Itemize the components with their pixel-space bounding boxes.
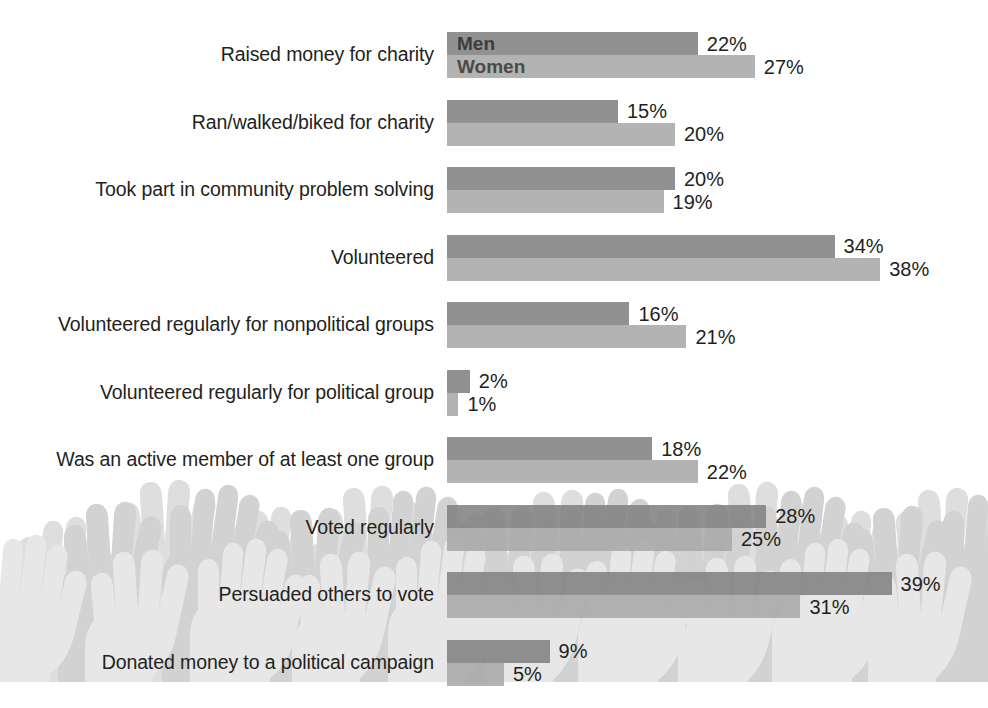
chart-row: Raised money for charityMen22%Women27%	[0, 32, 988, 78]
chart-row: Ran/walked/biked for charity15%20%	[0, 100, 988, 146]
bar-chart: Raised money for charityMen22%Women27%Ra…	[0, 0, 988, 708]
bar-value-label: 18%	[652, 437, 701, 460]
bar-value-label: 22%	[698, 460, 747, 483]
category-label: Volunteered regularly for political grou…	[0, 381, 434, 404]
bar-women[interactable]	[447, 663, 504, 686]
bar-value-label: 28%	[766, 505, 815, 528]
bar-value-label: 9%	[550, 640, 588, 663]
bar-men[interactable]	[447, 640, 550, 663]
category-label: Volunteered regularly for nonpolitical g…	[0, 313, 434, 336]
chart-row: Volunteered regularly for political grou…	[0, 370, 988, 416]
bar-value-label: 20%	[675, 167, 724, 190]
bar-women[interactable]	[447, 258, 880, 281]
bar-men[interactable]	[447, 100, 618, 123]
bar-women[interactable]	[447, 528, 732, 551]
chart-row: Persuaded others to vote39%31%	[0, 572, 988, 618]
bar-women[interactable]	[447, 460, 698, 483]
category-label: Donated money to a political campaign	[0, 651, 434, 674]
bar-women[interactable]	[447, 123, 675, 146]
legend-label-men: Men	[457, 33, 495, 55]
bar-women[interactable]	[447, 190, 664, 213]
bar-men[interactable]	[447, 302, 629, 325]
category-label: Volunteered	[0, 246, 434, 269]
bar-women[interactable]	[447, 595, 800, 618]
bar-value-label: 22%	[698, 32, 747, 55]
bar-value-label: 15%	[618, 100, 667, 123]
chart-row: Volunteered34%38%	[0, 235, 988, 281]
category-label: Took part in community problem solving	[0, 178, 434, 201]
bar-value-label: 2%	[470, 370, 508, 393]
bar-men[interactable]	[447, 167, 675, 190]
bar-value-label: 38%	[880, 258, 929, 281]
chart-row: Donated money to a political campaign9%5…	[0, 640, 988, 686]
chart-row: Voted regularly28%25%	[0, 505, 988, 551]
bar-value-label: 5%	[504, 663, 542, 686]
category-label: Raised money for charity	[0, 43, 434, 66]
bar-men[interactable]	[447, 505, 766, 528]
bar-men[interactable]	[447, 572, 892, 595]
legend-label-women: Women	[457, 56, 525, 78]
bar-value-label: 20%	[675, 123, 724, 146]
bar-value-label: 25%	[732, 528, 781, 551]
category-label: Persuaded others to vote	[0, 583, 434, 606]
category-label: Ran/walked/biked for charity	[0, 111, 434, 134]
bar-men[interactable]	[447, 370, 470, 393]
category-label: Was an active member of at least one gro…	[0, 448, 434, 471]
bar-value-label: 39%	[892, 572, 941, 595]
bar-value-label: 34%	[835, 235, 884, 258]
chart-row: Volunteered regularly for nonpolitical g…	[0, 302, 988, 348]
chart-row: Was an active member of at least one gro…	[0, 437, 988, 483]
bar-value-label: 21%	[686, 325, 735, 348]
bar-men[interactable]	[447, 437, 652, 460]
bar-women[interactable]	[447, 393, 458, 416]
category-label: Voted regularly	[0, 516, 434, 539]
bar-women[interactable]	[447, 325, 686, 348]
bar-value-label: 1%	[458, 393, 496, 416]
chart-row: Took part in community problem solving20…	[0, 167, 988, 213]
bar-value-label: 19%	[664, 190, 713, 213]
bar-value-label: 27%	[755, 55, 804, 78]
bar-value-label: 31%	[800, 595, 849, 618]
bar-value-label: 16%	[629, 302, 678, 325]
bar-men[interactable]	[447, 235, 835, 258]
